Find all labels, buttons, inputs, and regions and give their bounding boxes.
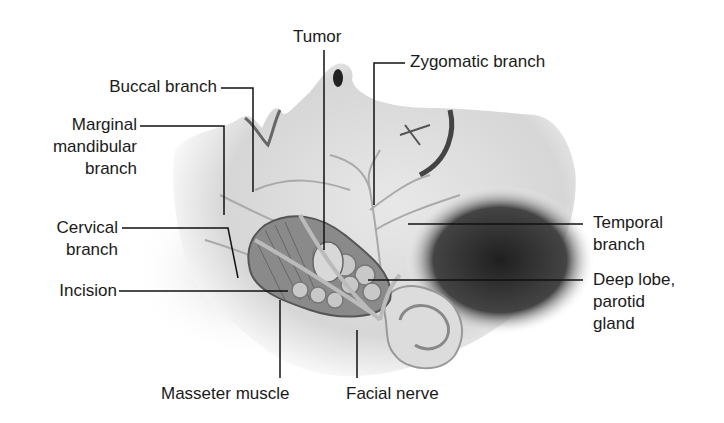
label-deep-lobe-parotid-gland: Deep lobe, parotid gland <box>593 269 675 335</box>
label-facial-nerve: Facial nerve <box>346 383 439 405</box>
nostril <box>333 69 343 87</box>
label-cervical-branch: Cervical branch <box>20 217 118 261</box>
label-marginal-mandibular-branch: Marginal mandibular branch <box>20 114 137 180</box>
label-masseter-muscle: Masseter muscle <box>161 383 289 405</box>
label-zygomatic-branch: Zygomatic branch <box>410 51 545 73</box>
label-buccal-branch: Buccal branch <box>60 76 217 98</box>
label-incision: Incision <box>20 280 117 302</box>
label-temporal-branch: Temporal branch <box>593 212 663 256</box>
label-tumor: Tumor <box>293 26 342 48</box>
